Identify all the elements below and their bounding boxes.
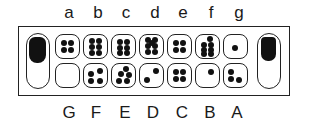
seed xyxy=(68,47,74,53)
seed xyxy=(228,69,234,75)
column-label-g: g xyxy=(229,4,249,21)
seed xyxy=(173,76,179,82)
pit-D[interactable] xyxy=(139,63,164,88)
seed xyxy=(173,40,179,46)
seed xyxy=(118,71,124,77)
seed xyxy=(149,40,155,46)
seed xyxy=(145,49,151,55)
pit-B[interactable] xyxy=(195,63,220,88)
column-label-C: C xyxy=(172,104,192,121)
column-label-B: B xyxy=(200,104,220,121)
pit-b[interactable] xyxy=(83,34,108,59)
column-label-F: F xyxy=(86,104,106,121)
pit-e[interactable] xyxy=(167,34,192,59)
seed xyxy=(88,71,94,77)
column-label-b: b xyxy=(88,4,108,21)
seed xyxy=(144,77,150,83)
column-label-D: D xyxy=(143,104,163,121)
seed xyxy=(173,47,179,53)
seed xyxy=(124,78,130,84)
seed xyxy=(232,45,238,51)
seed xyxy=(97,68,103,74)
seed xyxy=(152,49,158,55)
pit-g[interactable] xyxy=(223,34,248,59)
seed xyxy=(88,78,94,84)
mancala-board xyxy=(18,26,290,96)
seed xyxy=(96,50,102,56)
pit-C[interactable] xyxy=(167,63,192,88)
column-label-e: e xyxy=(173,4,193,21)
pit-d[interactable] xyxy=(139,34,164,59)
left-store[interactable] xyxy=(26,33,50,89)
column-label-d: d xyxy=(145,4,165,21)
seed xyxy=(68,40,74,46)
seed xyxy=(97,78,103,84)
seed xyxy=(208,69,214,75)
seed xyxy=(180,69,186,75)
seed xyxy=(61,40,67,46)
seed xyxy=(180,76,186,82)
pit-F[interactable] xyxy=(83,63,108,88)
seed-pile xyxy=(261,37,276,61)
seed xyxy=(228,76,234,82)
seed xyxy=(89,50,95,56)
pit-G[interactable] xyxy=(55,63,80,88)
pit-f[interactable] xyxy=(195,34,220,59)
seed xyxy=(208,51,214,57)
column-label-f: f xyxy=(201,4,221,21)
seed xyxy=(117,50,123,56)
right-store[interactable] xyxy=(257,33,281,89)
column-label-A: A xyxy=(227,104,247,121)
seed xyxy=(180,40,186,46)
pit-c[interactable] xyxy=(111,34,136,59)
seed xyxy=(153,68,159,74)
column-label-a: a xyxy=(59,4,79,21)
seed xyxy=(180,47,186,53)
seed-pile xyxy=(29,37,46,63)
seed xyxy=(173,69,179,75)
column-label-c: c xyxy=(116,4,136,21)
seed xyxy=(116,78,122,84)
seed xyxy=(236,77,242,83)
column-label-G: G xyxy=(59,104,79,121)
pit-a[interactable] xyxy=(55,34,80,59)
seed xyxy=(124,50,130,56)
column-label-E: E xyxy=(115,104,135,121)
seed xyxy=(61,47,67,53)
pit-E[interactable] xyxy=(111,63,136,88)
pit-A[interactable] xyxy=(223,63,248,88)
seed xyxy=(201,51,207,57)
